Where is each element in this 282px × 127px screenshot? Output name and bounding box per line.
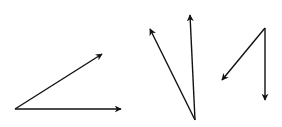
- vector-pair-1: [15, 54, 121, 109]
- vector-diagram: [0, 0, 282, 127]
- vector-down-left-arrow-icon: [222, 28, 265, 80]
- vector-pair-2: [150, 15, 195, 120]
- vector-up-right-arrow-icon: [15, 54, 102, 109]
- arrows-layer: [15, 15, 265, 120]
- vector-up-left-arrow-icon: [150, 29, 195, 120]
- vector-pair-3: [222, 28, 265, 100]
- vector-up-arrow-icon: [190, 15, 195, 120]
